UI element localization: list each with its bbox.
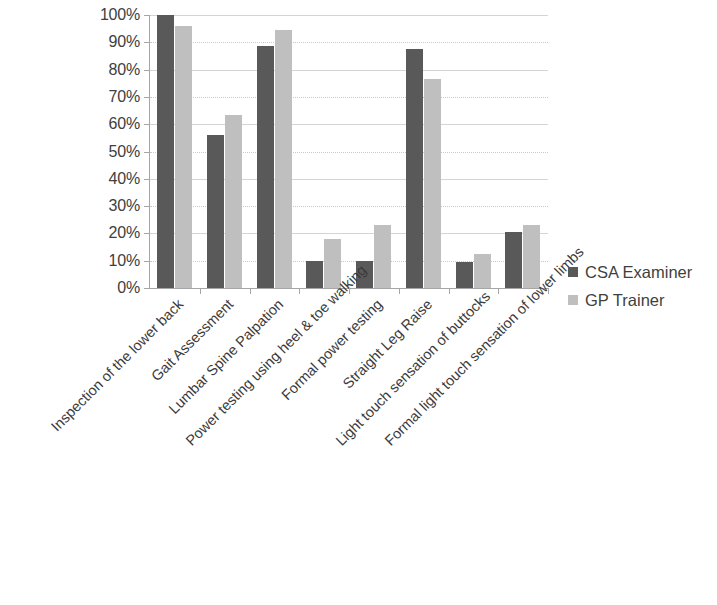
x-axis-tick xyxy=(200,288,201,294)
y-axis-tick xyxy=(144,179,150,180)
y-axis-tick-label: 80% xyxy=(84,62,140,78)
bar-gp-trainer xyxy=(374,225,391,288)
bar-gp-trainer xyxy=(424,79,441,288)
y-axis-tick-label: 90% xyxy=(84,34,140,50)
y-axis-tick-label: 60% xyxy=(84,116,140,132)
x-axis-tick xyxy=(250,288,251,294)
x-axis-tick xyxy=(449,288,450,294)
bar-gp-trainer xyxy=(523,225,540,288)
bar-csa-examiner xyxy=(157,15,174,288)
y-axis-tick-label: 40% xyxy=(84,171,140,187)
legend-label: GP Trainer xyxy=(585,291,664,310)
y-axis-tick xyxy=(144,288,150,289)
bar-chart: 0%10%20%30%40%50%60%70%80%90%100% Inspec… xyxy=(0,0,717,605)
bar-csa-examiner xyxy=(505,232,522,288)
x-axis-tick xyxy=(349,288,350,294)
y-axis-tick xyxy=(144,70,150,71)
gridline xyxy=(150,97,548,98)
gridline xyxy=(150,124,548,125)
y-axis-tick xyxy=(144,15,150,16)
x-axis-tick xyxy=(299,288,300,294)
y-axis-tick xyxy=(144,42,150,43)
bar-csa-examiner xyxy=(456,262,473,288)
y-axis-tick-label: 50% xyxy=(84,144,140,160)
gridline xyxy=(150,15,548,16)
y-axis-tick xyxy=(144,261,150,262)
bar-gp-trainer xyxy=(225,115,242,288)
bar-csa-examiner xyxy=(257,46,274,288)
x-axis-tick xyxy=(548,288,549,294)
x-axis-category-labels: Inspection of the lower backGait Assessm… xyxy=(0,288,717,588)
y-axis-tick-label: 10% xyxy=(84,253,140,269)
legend-swatch xyxy=(568,295,578,305)
y-axis-tick-label: 100% xyxy=(84,7,140,23)
x-axis-tick xyxy=(498,288,499,294)
legend-swatch xyxy=(568,267,578,277)
plot-area xyxy=(150,15,548,288)
y-axis-tick xyxy=(144,206,150,207)
bar-gp-trainer xyxy=(175,26,192,288)
legend-item: GP Trainer xyxy=(568,286,717,314)
legend-label: CSA Examiner xyxy=(585,263,692,282)
y-axis-tick xyxy=(144,233,150,234)
y-axis-tick xyxy=(144,152,150,153)
chart-legend: CSA ExaminerGP Trainer xyxy=(568,258,717,314)
bar-csa-examiner xyxy=(406,49,423,288)
bar-gp-trainer xyxy=(275,30,292,288)
bar-csa-examiner xyxy=(207,135,224,288)
bar-csa-examiner xyxy=(306,261,323,288)
y-axis-tick xyxy=(144,124,150,125)
legend-item: CSA Examiner xyxy=(568,258,717,286)
bar-gp-trainer xyxy=(474,254,491,288)
y-axis-tick-label: 70% xyxy=(84,89,140,105)
gridline xyxy=(150,70,548,71)
y-axis-tick xyxy=(144,97,150,98)
gridline xyxy=(150,42,548,43)
x-axis-tick xyxy=(399,288,400,294)
y-axis-labels: 0%10%20%30%40%50%60%70%80%90%100% xyxy=(80,0,140,300)
y-axis-tick-label: 20% xyxy=(84,225,140,241)
y-axis-tick-label: 30% xyxy=(84,198,140,214)
